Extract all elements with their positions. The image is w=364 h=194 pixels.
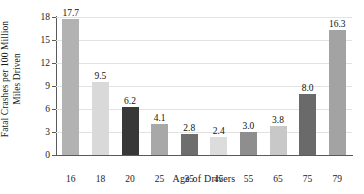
bar[interactable]: 4.1: [151, 124, 168, 155]
y-tick-mark: [52, 63, 56, 64]
y-axis-title-line-1: Fatal Crashes per 100 Million: [0, 0, 12, 158]
gridline: [56, 63, 352, 64]
bar[interactable]: 17.7: [62, 19, 79, 155]
y-tick-mark: [52, 132, 56, 133]
y-tick-mark: [52, 17, 56, 18]
y-tick-mark: [52, 155, 56, 156]
gridline: [56, 17, 352, 18]
bar-value-label: 3.8: [272, 115, 284, 125]
bar[interactable]: 9.5: [92, 82, 109, 155]
bar-value-label: 17.7: [62, 8, 79, 18]
x-axis-title: Age of Drivers: [56, 173, 352, 185]
y-tick-mark: [52, 40, 56, 41]
y-tick-label: 18: [41, 12, 51, 22]
bar-value-label: 8.0: [302, 83, 314, 93]
y-axis-title-line-2: Miles Driven: [12, 0, 24, 158]
bar-value-label: 9.5: [94, 71, 106, 81]
bar[interactable]: 8.0: [299, 94, 316, 155]
bar[interactable]: 6.2: [122, 107, 139, 155]
y-tick-label: 15: [41, 35, 51, 45]
bar-value-label: 2.8: [183, 123, 195, 133]
bar-chart: Fatal Crashes per 100 Million Miles Driv…: [0, 0, 364, 194]
plot-area: 036912151817.7169.5186.2204.1252.8352.44…: [56, 17, 352, 155]
y-tick-label: 12: [41, 58, 51, 68]
bar-value-label: 6.2: [124, 96, 136, 106]
y-tick-label: 6: [45, 104, 50, 114]
y-axis-title: Fatal Crashes per 100 Million Miles Driv…: [0, 0, 32, 160]
bar-value-label: 4.1: [154, 113, 166, 123]
y-tick-mark: [52, 86, 56, 87]
bar[interactable]: 2.8: [181, 134, 198, 155]
y-tick-mark: [52, 109, 56, 110]
y-tick-label: 3: [45, 127, 50, 137]
gridline: [56, 40, 352, 41]
bar[interactable]: 3.0: [240, 132, 257, 155]
y-tick-label: 9: [45, 81, 50, 91]
bar[interactable]: 3.8: [270, 126, 287, 155]
y-tick-label: 0: [45, 150, 50, 160]
x-axis-line: [56, 155, 353, 156]
bar-value-label: 3.0: [242, 121, 254, 131]
bar-value-label: 2.4: [213, 126, 225, 136]
bar[interactable]: 16.3: [329, 30, 346, 155]
bar[interactable]: 2.4: [210, 137, 227, 155]
bar-value-label: 16.3: [329, 19, 346, 29]
